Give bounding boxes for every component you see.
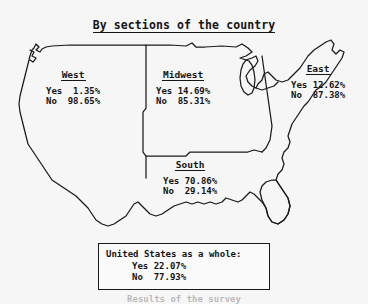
region-midwest-stats: Yes 14.69% No 85.31% bbox=[156, 86, 210, 107]
region-east-no: No 87.38% bbox=[291, 90, 345, 101]
national-summary-title: United States as a whole: bbox=[106, 249, 262, 260]
national-summary-yes: Yes 22.07% bbox=[132, 261, 262, 272]
region-south: South Yes 70.86% No 29.14% bbox=[163, 160, 217, 197]
figure-caption: Results of the survey bbox=[0, 294, 368, 304]
region-south-label: South bbox=[163, 160, 217, 171]
region-east-label: East bbox=[291, 64, 345, 75]
region-midwest-yes: Yes 14.69% bbox=[156, 86, 210, 97]
region-west-no: No 98.65% bbox=[46, 96, 100, 107]
region-east-stats: Yes 12.62% No 87.38% bbox=[291, 80, 345, 101]
region-midwest-label: Midwest bbox=[156, 70, 210, 81]
national-summary-box: United States as a whole: Yes 22.07% No … bbox=[98, 243, 270, 290]
region-east: East Yes 12.62% No 87.38% bbox=[291, 64, 345, 101]
national-summary-stats: Yes 22.07% No 77.93% bbox=[106, 261, 262, 283]
region-east-yes: Yes 12.62% bbox=[291, 80, 345, 91]
national-summary-no: No 77.93% bbox=[132, 272, 262, 283]
region-midwest-no: No 85.31% bbox=[156, 96, 210, 107]
region-west-yes: Yes 1.35% bbox=[46, 86, 100, 97]
region-south-no: No 29.14% bbox=[163, 186, 217, 197]
region-south-yes: Yes 70.86% bbox=[163, 176, 217, 187]
divider-midwest-south bbox=[146, 150, 262, 156]
region-midwest: Midwest Yes 14.69% No 85.31% bbox=[156, 70, 210, 107]
region-west-stats: Yes 1.35% No 98.65% bbox=[46, 86, 100, 107]
lake-michigan-mitten bbox=[240, 60, 255, 95]
region-west: West Yes 1.35% No 98.65% bbox=[46, 70, 100, 107]
region-west-label: West bbox=[46, 70, 100, 81]
divider-midwest-east bbox=[262, 56, 272, 152]
divider-west-midwest bbox=[143, 45, 146, 178]
region-south-stats: Yes 70.86% No 29.14% bbox=[163, 176, 217, 197]
florida-peninsula bbox=[260, 180, 290, 224]
